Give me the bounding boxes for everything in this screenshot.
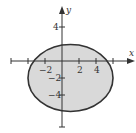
x-tick-label-2: 2 <box>77 65 83 75</box>
ellipse-region <box>28 45 113 112</box>
y-axis-label: y <box>65 5 72 15</box>
y-tick-label-4: 4 <box>53 22 59 32</box>
ellipse-graph: x y −2 2 4 4 −2 −4 <box>0 0 136 133</box>
x-axis-label: x <box>129 48 134 58</box>
y-tick-label-neg2: −2 <box>48 73 61 83</box>
x-tick-label-4: 4 <box>94 65 100 75</box>
y-axis-arrow-icon <box>59 6 65 14</box>
y-tick-label-neg4: −4 <box>48 90 62 100</box>
x-axis-arrow-icon <box>127 58 135 64</box>
